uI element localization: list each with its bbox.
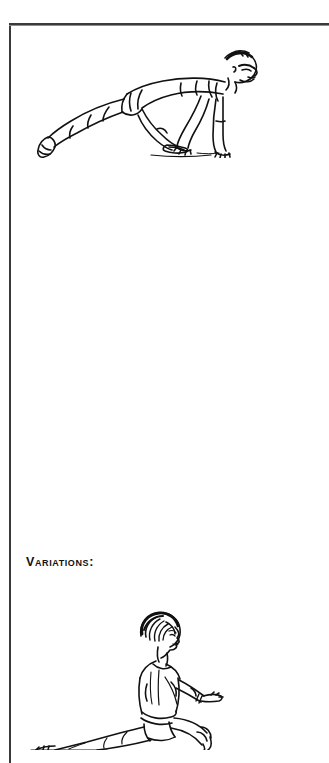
runner-lunge-svg (11, 33, 317, 158)
page-content-column: Line drawing of a man in a deep runner's… (11, 25, 317, 743)
runner-lunge-illustration: Line drawing of a man in a deep runner's… (11, 33, 317, 158)
low-lunge-stretch-illustration: Line drawing of a woman in a low lunge s… (11, 600, 317, 750)
low-lunge-stretch-svg (11, 600, 317, 750)
variations-heading: Variations: (26, 555, 94, 569)
